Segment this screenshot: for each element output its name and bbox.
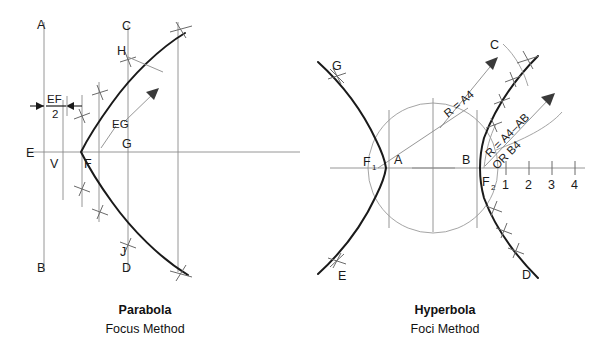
label-f1: F 1 <box>363 155 377 172</box>
label-b: B <box>37 261 45 275</box>
eg-label: EG <box>112 118 129 130</box>
hyperbola-caption-subtitle: Foci Method <box>360 322 530 336</box>
label-g: G <box>332 59 342 73</box>
label-f1-letter: F <box>363 155 371 169</box>
label-v: V <box>50 157 59 171</box>
label-c: C <box>490 38 499 52</box>
cross-mark <box>170 265 192 281</box>
label-a: A <box>394 153 403 167</box>
label-e: E <box>26 146 34 160</box>
figure-sheet: EF 2 EG A B C D E V F G H J <box>0 0 601 347</box>
hyperbola-figure: R = A4 R = A4–AB OR B4 1 2 3 4 G E C D A… <box>300 0 601 300</box>
scale-label-4: 4 <box>571 178 578 192</box>
label-f2-subscript: 2 <box>491 183 496 192</box>
parabola-curve <box>81 33 188 275</box>
label-f2-letter: F <box>482 175 490 189</box>
label-j: J <box>120 245 126 259</box>
r-a4-ab-leader: R = A4–AB OR B4 <box>483 93 555 171</box>
label-e: E <box>338 269 346 283</box>
label-b: B <box>462 153 470 167</box>
r-a4-leader: R = A4 <box>440 57 498 128</box>
ef-label: EF <box>47 93 62 105</box>
label-f1-subscript: 1 <box>372 163 377 172</box>
cross-mark <box>494 94 510 108</box>
sweep-arc-1 <box>503 44 528 86</box>
parabola-caption-subtitle: Focus Method <box>60 322 230 336</box>
r-a4-label: R = A4 <box>442 88 477 120</box>
cross-mark <box>92 205 108 219</box>
label-g: G <box>122 137 132 151</box>
cross-mark <box>92 85 108 100</box>
radius-construction-line <box>378 108 468 168</box>
scale-label-2: 2 <box>525 178 532 192</box>
label-a: A <box>37 18 46 32</box>
scale-label-1: 1 <box>502 178 509 192</box>
parabola-caption-title: Parabola <box>60 303 230 317</box>
label-f: F <box>84 157 92 171</box>
ef-over-2-dimension: EF 2 <box>30 93 82 120</box>
label-c: C <box>122 19 131 33</box>
scale-label-3: 3 <box>548 178 555 192</box>
label-d: D <box>522 268 531 282</box>
parabola-figure: EF 2 EG A B C D E V F G H J <box>0 0 300 300</box>
label-d: D <box>122 261 131 275</box>
hyperbola-caption-title: Hyperbola <box>360 303 530 317</box>
label-f2: F 2 <box>482 175 496 192</box>
arc-intersection-marks-upper <box>74 22 192 123</box>
eg-leader: EG <box>101 57 163 148</box>
label-h: H <box>117 44 126 58</box>
two-label: 2 <box>52 108 58 120</box>
